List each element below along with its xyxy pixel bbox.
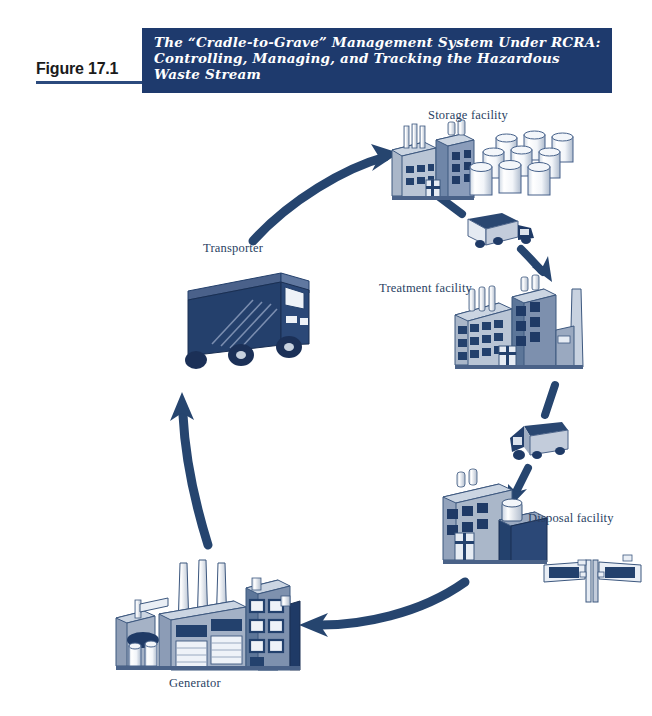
label-generator: Generator (169, 676, 221, 691)
figure-header: Figure 17.1 The “Cradle-to-Grave” Manage… (0, 0, 652, 105)
small-truck-icon-storage (468, 213, 534, 248)
transport-truck-icon (185, 273, 309, 369)
arrow-transporter-to-storage (253, 144, 399, 241)
figure-title-banner: The “Cradle-to-Grave” Management System … (142, 28, 612, 93)
label-disposal-facility: Disposal facility (528, 511, 614, 526)
figure-title-text: The “Cradle-to-Grave” Management System … (154, 34, 602, 82)
figure-number-label: Figure 17.1 (36, 60, 142, 78)
storage-facility-icon (392, 120, 573, 200)
label-storage-facility: Storage facility (428, 108, 508, 123)
disposal-facility-icon (443, 469, 641, 602)
arrow-disposal-to-generator (299, 582, 465, 637)
figure-number-block: Figure 17.1 (36, 60, 142, 84)
figure-number-underline (36, 81, 142, 84)
landfill-gate-icon (544, 555, 641, 602)
treatment-facility-icon (455, 275, 583, 369)
arrow-storage-to-treatment (438, 196, 552, 282)
arrow-treatment-to-disposal (508, 385, 568, 509)
generator-plant-icon (116, 560, 300, 670)
storage-drums-icon (470, 131, 573, 195)
arrow-generator-to-transporter (170, 392, 208, 545)
small-truck-icon-treatment (510, 422, 568, 460)
cradle-to-grave-diagram (0, 0, 652, 716)
label-transporter: Transporter (203, 241, 263, 256)
label-treatment-facility: Treatment facility (379, 281, 472, 296)
